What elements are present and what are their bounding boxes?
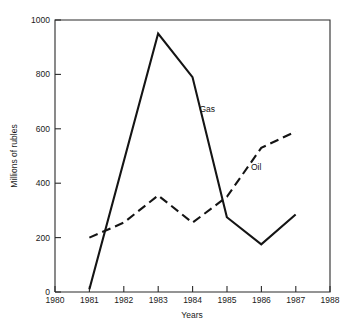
series-line-oil [89, 132, 295, 238]
x-axis: 1980 1981 1982 1983 1984 1985 [46, 286, 340, 320]
x-tick-label: 1986 [252, 295, 271, 305]
y-tick-600: 600 [36, 124, 61, 134]
axis-frame-box [55, 20, 330, 292]
x-axis-title: Years [181, 310, 202, 320]
x-tick-1982: 1982 [114, 286, 133, 305]
x-tick-1984: 1984 [183, 286, 202, 305]
y-tick-label: 400 [36, 178, 50, 188]
x-tick-label: 1984 [183, 295, 202, 305]
x-tick-label: 1988 [321, 295, 340, 305]
y-axis-title: Millions of rubles [9, 124, 19, 187]
y-tick-1000: 1000 [31, 15, 61, 25]
figure-chart-oil-gas: 0 200 400 600 800 1000 Millions [0, 0, 344, 336]
x-tick-label: 1982 [114, 295, 133, 305]
y-tick-800: 800 [36, 69, 61, 79]
y-tick-400: 400 [36, 178, 61, 188]
x-tick-1987: 1987 [286, 286, 305, 305]
x-tick-1988: 1988 [321, 286, 340, 305]
x-tick-label: 1985 [218, 295, 237, 305]
y-axis: 0 200 400 600 800 1000 Millions [9, 15, 61, 297]
line-chart: 0 200 400 600 800 1000 Millions [0, 0, 344, 336]
series-line-gas [89, 34, 295, 290]
series-label-oil: Oil [251, 162, 262, 172]
x-tick-label: 1981 [80, 295, 99, 305]
y-tick-200: 200 [36, 233, 61, 243]
y-tick-label: 1000 [31, 15, 50, 25]
y-tick-label: 200 [36, 233, 50, 243]
x-tick-label: 1980 [46, 295, 65, 305]
figure-caption-clipped [0, 328, 344, 336]
x-tick-1983: 1983 [149, 286, 168, 305]
plot-frame [55, 20, 330, 292]
x-tick-1985: 1985 [218, 286, 237, 305]
y-tick-label: 600 [36, 124, 50, 134]
x-tick-1986: 1986 [252, 286, 271, 305]
x-tick-label: 1987 [286, 295, 305, 305]
series-label-gas: Gas [199, 104, 215, 114]
y-tick-label: 800 [36, 69, 50, 79]
x-tick-label: 1983 [149, 295, 168, 305]
